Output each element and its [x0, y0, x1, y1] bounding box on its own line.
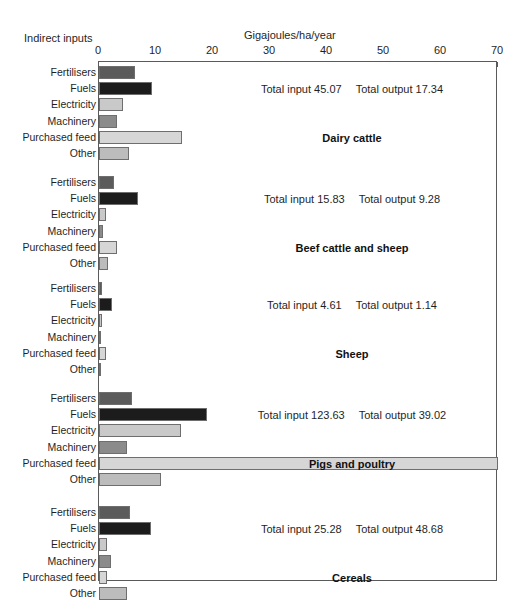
chart-group: FertilisersFuelsElectricityMachineryPurc…	[0, 66, 520, 171]
x-axis-tick-label: 20	[206, 44, 218, 56]
chart-row: Purchased feed	[0, 131, 520, 144]
chart-row: Other	[0, 147, 520, 160]
bar-electricity	[99, 98, 123, 111]
bar-purchased-feed	[99, 457, 498, 470]
total-input-text: Total input 4.61	[267, 299, 342, 311]
row-label-purchased-feed: Purchased feed	[22, 347, 96, 360]
bar-fertilisers	[99, 392, 132, 405]
group-title: Beef cattle and sheep	[295, 242, 408, 254]
row-label-fertilisers: Fertilisers	[50, 176, 96, 189]
group-totals: Total input 4.61Total output 1.14	[267, 299, 437, 311]
row-label-fertilisers: Fertilisers	[50, 66, 96, 79]
bar-electricity	[99, 424, 181, 437]
bar-other	[99, 147, 129, 160]
chart-group: FertilisersFuelsElectricityMachineryPurc…	[0, 392, 520, 497]
chart-group: FertilisersFuelsElectricityMachineryPurc…	[0, 506, 520, 611]
chart-row: Fertilisers	[0, 176, 520, 189]
chart-row: Other	[0, 257, 520, 270]
bar-other	[99, 257, 108, 270]
x-axis-tick-label: 50	[377, 44, 389, 56]
row-label-other: Other	[70, 363, 96, 376]
row-label-other: Other	[70, 587, 96, 600]
group-title: Sheep	[335, 348, 368, 360]
row-label-fuels: Fuels	[70, 298, 96, 311]
bar-machinery	[99, 555, 111, 568]
total-output-text: Total output 1.14	[356, 299, 437, 311]
row-label-electricity: Electricity	[51, 538, 96, 551]
chart-row: Other	[0, 473, 520, 486]
group-title: Cereals	[332, 572, 372, 584]
energy-use-bar-chart: Indirect inputs Gigajoules/ha/year 01020…	[0, 0, 520, 612]
chart-row: Fertilisers	[0, 66, 520, 79]
row-label-fuels: Fuels	[70, 192, 96, 205]
chart-group: FertilisersFuelsElectricityMachineryPurc…	[0, 282, 520, 387]
row-label-machinery: Machinery	[48, 225, 96, 238]
bar-machinery	[99, 441, 127, 454]
row-label-machinery: Machinery	[48, 441, 96, 454]
row-label-electricity: Electricity	[51, 424, 96, 437]
row-label-purchased-feed: Purchased feed	[22, 241, 96, 254]
row-label-electricity: Electricity	[51, 314, 96, 327]
bar-other	[99, 587, 127, 600]
chart-row: Other	[0, 587, 520, 600]
group-title: Dairy cattle	[322, 132, 381, 144]
bar-purchased-feed	[99, 571, 107, 584]
bar-electricity	[99, 314, 102, 327]
bar-purchased-feed	[99, 241, 117, 254]
x-axis-tick-label: 0	[95, 44, 101, 56]
total-output-text: Total output 48.68	[356, 523, 443, 535]
chart-row: Fertilisers	[0, 392, 520, 405]
chart-row: Purchased feed	[0, 457, 520, 470]
row-label-other: Other	[70, 147, 96, 160]
group-totals: Total input 45.07Total output 17.34	[261, 83, 443, 95]
x-axis-tick-label: 10	[149, 44, 161, 56]
x-axis-tick-label: 70	[491, 44, 503, 56]
row-label-machinery: Machinery	[48, 555, 96, 568]
bar-other	[99, 473, 161, 486]
group-totals: Total input 25.28Total output 48.68	[261, 523, 443, 535]
bar-fuels	[99, 298, 112, 311]
chart-row: Fuels	[0, 298, 520, 311]
bar-purchased-feed	[99, 347, 106, 360]
chart-row: Machinery	[0, 441, 520, 454]
total-output-text: Total output 17.34	[356, 83, 443, 95]
chart-row: Other	[0, 363, 520, 376]
bar-purchased-feed	[99, 131, 182, 144]
bar-fertilisers	[99, 66, 135, 79]
chart-row: Purchased feed	[0, 241, 520, 254]
total-input-text: Total input 15.83	[264, 193, 345, 205]
chart-row: Fuels	[0, 192, 520, 205]
row-label-machinery: Machinery	[48, 331, 96, 344]
row-label-fertilisers: Fertilisers	[50, 282, 96, 295]
row-label-other: Other	[70, 473, 96, 486]
indirect-inputs-label: Indirect inputs	[24, 32, 92, 44]
group-title: Pigs and poultry	[309, 458, 395, 470]
bar-fuels	[99, 192, 138, 205]
chart-row: Machinery	[0, 225, 520, 238]
chart-row: Machinery	[0, 115, 520, 128]
chart-row: Fertilisers	[0, 506, 520, 519]
bar-machinery	[99, 331, 101, 344]
row-label-fertilisers: Fertilisers	[50, 392, 96, 405]
chart-row: Purchased feed	[0, 571, 520, 584]
total-output-text: Total output 9.28	[359, 193, 440, 205]
chart-row: Purchased feed	[0, 347, 520, 360]
chart-row: Electricity	[0, 208, 520, 221]
total-input-text: Total input 25.28	[261, 523, 342, 535]
x-axis-tick-label: 30	[263, 44, 275, 56]
bar-electricity	[99, 208, 106, 221]
chart-row: Fertilisers	[0, 282, 520, 295]
row-label-machinery: Machinery	[48, 115, 96, 128]
total-input-text: Total input 123.63	[258, 409, 345, 421]
x-axis-tick-label: 40	[320, 44, 332, 56]
bar-fuels	[99, 82, 152, 95]
row-label-other: Other	[70, 257, 96, 270]
chart-row: Electricity	[0, 538, 520, 551]
group-totals: Total input 123.63Total output 39.02	[258, 409, 446, 421]
bar-fertilisers	[99, 176, 114, 189]
row-label-fuels: Fuels	[70, 408, 96, 421]
bar-machinery	[99, 115, 117, 128]
axis-title: Gigajoules/ha/year	[244, 29, 336, 41]
chart-row: Electricity	[0, 98, 520, 111]
bar-electricity	[99, 538, 107, 551]
